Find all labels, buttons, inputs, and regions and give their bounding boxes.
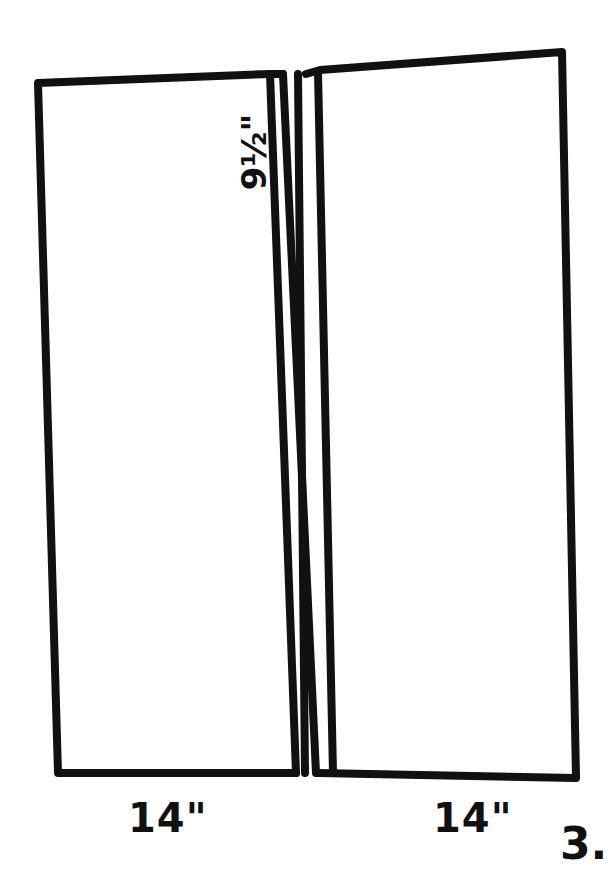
right-panel-outline	[306, 52, 576, 778]
step-number: 3.	[560, 822, 607, 866]
strip-line-3	[298, 74, 305, 773]
pattern-diagram	[0, 0, 616, 882]
right-width-label: 14"	[433, 798, 513, 838]
strip-width-label: 9½"	[237, 112, 271, 192]
strip-line-4	[318, 72, 333, 773]
left-width-label: 14"	[128, 798, 208, 838]
